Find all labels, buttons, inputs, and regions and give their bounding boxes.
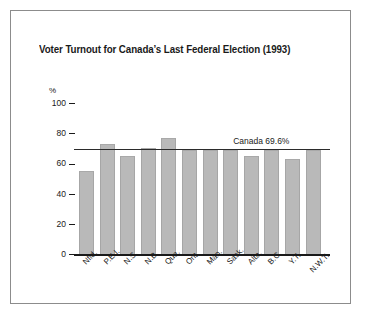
chart-frame: Voter Turnout for Canada’s Last Federal … (10, 10, 351, 304)
y-tick-label-80: 80 (57, 128, 66, 138)
bar-ns (120, 156, 135, 254)
y-tick-label-0: 0 (61, 249, 66, 259)
bar-que (161, 138, 176, 254)
bar-alta (244, 156, 259, 254)
plot-area (79, 103, 327, 254)
canada-average-line (74, 149, 330, 151)
y-tick-mark (69, 194, 75, 195)
y-tick-label-100: 100 (52, 98, 66, 108)
bar-nfld (79, 171, 94, 254)
bar-nwt (306, 150, 321, 254)
chart-title: Voter Turnout for Canada’s Last Federal … (39, 43, 290, 55)
bar-nb (141, 148, 156, 254)
bar-sask (223, 150, 238, 254)
bar-yt (285, 159, 300, 254)
bar-ont (182, 150, 197, 254)
y-tick-mark (69, 103, 75, 104)
y-tick-label-60: 60 (57, 158, 66, 168)
y-tick-mark (69, 224, 75, 225)
y-tick-label-20: 20 (57, 219, 66, 229)
y-tick-mark (69, 164, 75, 165)
bar-bc (264, 150, 279, 254)
canada-average-label: Canada 69.6% (233, 136, 289, 146)
y-axis: 100 80 60 40 20 0 (11, 11, 75, 305)
y-tick-mark (69, 133, 75, 134)
y-tick-label-40: 40 (57, 189, 66, 199)
bar-pei (100, 144, 115, 254)
bar-man (203, 150, 218, 254)
